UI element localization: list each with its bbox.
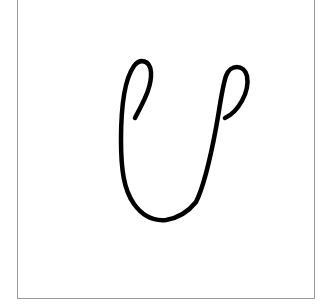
cursive-u-glyph	[0, 0, 322, 307]
letter-stroke	[121, 61, 247, 220]
